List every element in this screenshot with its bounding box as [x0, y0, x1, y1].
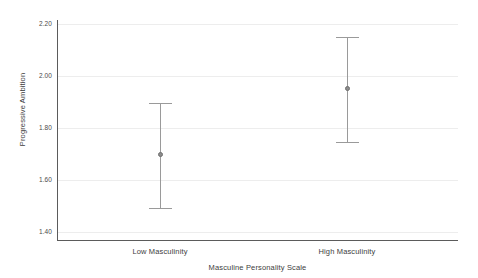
y-tick-label-2-00: 2.00: [12, 72, 52, 79]
x-tick-label-low-masculinity: Low Masculinity: [90, 247, 230, 256]
y-tick-label-1-80: 1.80: [12, 124, 52, 131]
x-tick-label-high-masculinity: High Masculinity: [277, 247, 417, 256]
data-point-marker: [158, 152, 163, 157]
x-axis-line: [57, 240, 458, 241]
y-axis-title: Progressive Ambition: [18, 30, 27, 190]
gridline-1-60: [58, 180, 458, 181]
errorbar-cap-lower: [149, 208, 172, 209]
data-point-marker: [345, 86, 350, 91]
gridline-2-00: [58, 76, 458, 77]
chart-figure: Progressive Ambition 2.20 2.00 1.80 1.60…: [0, 0, 478, 278]
x-axis-title: Masculine Personality Scale: [57, 263, 458, 272]
gridline-1-40: [58, 232, 458, 233]
y-tick-label-1-60: 1.60: [12, 176, 52, 183]
y-axis-line: [57, 20, 58, 241]
y-tick-label-1-40: 1.40: [12, 228, 52, 235]
gridline-1-80: [58, 128, 458, 129]
gridline-2-20: [58, 24, 458, 25]
y-tick-label-2-20: 2.20: [12, 20, 52, 27]
errorbar-cap-lower: [336, 142, 359, 143]
